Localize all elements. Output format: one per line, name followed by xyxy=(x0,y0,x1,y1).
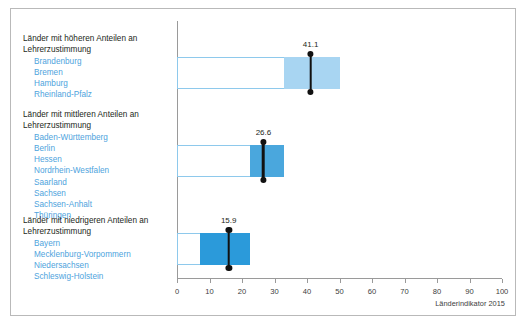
x-tick-mark xyxy=(372,279,373,283)
x-tick-label: 70 xyxy=(400,287,408,296)
x-tick-mark xyxy=(437,279,438,283)
category-group-title: Länder mit mittleren Anteilen an Lehrerz… xyxy=(23,109,175,132)
x-tick-label: 0 xyxy=(175,287,179,296)
value-marker xyxy=(309,54,312,92)
x-tick-mark xyxy=(307,279,308,283)
value-label: 26.6 xyxy=(256,128,272,137)
x-tick-label: 30 xyxy=(270,287,278,296)
bar-row: 41.1 xyxy=(177,57,502,89)
value-marker-dot-top xyxy=(225,227,232,234)
x-tick-label: 50 xyxy=(335,287,343,296)
list-item: Baden-Württemberg xyxy=(23,132,175,143)
x-tick-label: 100 xyxy=(496,287,509,296)
list-item: Berlin xyxy=(23,143,175,154)
category-group-title: Länder mit höheren Anteilen an Lehrerzus… xyxy=(23,33,175,56)
list-item: Niedersachsen xyxy=(23,260,175,271)
list-item: Mecklenburg-Vorpommern xyxy=(23,249,175,260)
category-member-list: Brandenburg Bremen Hamburg Rheinland-Pfa… xyxy=(23,56,175,101)
source-note: Länderindikator 2015 xyxy=(435,299,505,308)
category-group-low: Länder mit niedrigeren Anteilen an Lehre… xyxy=(23,215,175,283)
x-tick-label: 90 xyxy=(465,287,473,296)
bar-fill xyxy=(200,233,250,265)
value-marker-dot-top xyxy=(307,51,314,58)
x-tick-mark xyxy=(340,279,341,283)
bar-row: 15.9 xyxy=(177,233,502,265)
bar-row: 26.6 xyxy=(177,145,502,177)
x-tick-label: 40 xyxy=(303,287,311,296)
list-item: Sachsen xyxy=(23,188,175,199)
x-tick-mark xyxy=(405,279,406,283)
list-item: Brandenburg xyxy=(23,56,175,67)
value-marker-dot-bottom xyxy=(225,265,232,272)
value-marker xyxy=(262,142,265,180)
value-marker-dot-bottom xyxy=(307,89,314,96)
list-item: Nordrhein-Westfalen xyxy=(23,165,175,176)
x-tick-label: 10 xyxy=(205,287,213,296)
x-tick-mark xyxy=(242,279,243,283)
x-tick-mark xyxy=(210,279,211,283)
category-group-middle: Länder mit mittleren Anteilen an Lehrerz… xyxy=(23,109,175,221)
list-item: Bremen xyxy=(23,67,175,78)
value-label: 41.1 xyxy=(303,40,319,49)
list-item: Rheinland-Pfalz xyxy=(23,89,175,100)
x-tick-mark xyxy=(470,279,471,283)
x-tick-label: 80 xyxy=(433,287,441,296)
x-tick-label: 60 xyxy=(368,287,376,296)
value-marker xyxy=(227,230,230,268)
bar-fill xyxy=(284,57,339,89)
x-tick-label: 20 xyxy=(238,287,246,296)
category-member-list: Bayern Mecklenburg-Vorpommern Niedersach… xyxy=(23,238,175,283)
value-marker-dot-bottom xyxy=(260,177,267,184)
value-label: 15.9 xyxy=(221,216,237,225)
list-item: Hamburg xyxy=(23,78,175,89)
x-tick-mark xyxy=(177,279,178,283)
list-item: Saarland xyxy=(23,177,175,188)
list-item: Hessen xyxy=(23,154,175,165)
category-group-title: Länder mit niedrigeren Anteilen an Lehre… xyxy=(23,215,175,238)
list-item: Bayern xyxy=(23,238,175,249)
value-marker-dot-top xyxy=(260,139,267,146)
x-tick-mark xyxy=(502,279,503,283)
x-tick-mark xyxy=(275,279,276,283)
category-member-list: Baden-Württemberg Berlin Hessen Nordrhei… xyxy=(23,132,175,222)
list-item: Schleswig-Holstein xyxy=(23,271,175,282)
category-label-column: Länder mit höheren Anteilen an Lehrerzus… xyxy=(23,19,175,287)
chart-figure: Länder mit höheren Anteilen an Lehrerzus… xyxy=(10,8,516,316)
category-group-high: Länder mit höheren Anteilen an Lehrerzus… xyxy=(23,33,175,101)
plot-area: 0102030405060708090100 41.126.615.9 xyxy=(177,21,502,279)
list-item: Sachsen-Anhalt xyxy=(23,199,175,210)
bar-fill xyxy=(250,145,284,177)
